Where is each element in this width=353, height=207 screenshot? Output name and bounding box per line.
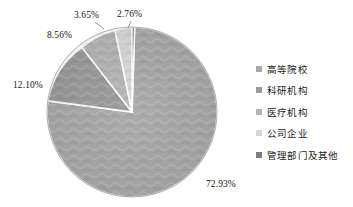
chart-legend: 高等院校 科研机构 医疗机构 公司企业 管理部门及其他: [256, 58, 351, 166]
legend-item-higher-education[interactable]: 高等院校: [256, 58, 351, 80]
legend-item-research-institute[interactable]: 科研机构: [256, 80, 351, 102]
legend-swatch-icon: [256, 109, 262, 115]
pie-value-label-company-enterprise: 3.65%: [74, 10, 99, 20]
legend-swatch-icon: [256, 130, 262, 136]
legend-swatch-icon: [256, 87, 262, 93]
legend-label: 公司企业: [267, 126, 308, 140]
leader-line-365: [95, 22, 104, 29]
pie-shading-overlay: [47, 27, 217, 197]
pie-value-label-research-institute: 12.10%: [13, 80, 43, 90]
legend-label: 高等院校: [267, 62, 308, 76]
legend-label: 管理部门及其他: [267, 148, 338, 162]
legend-item-medical-institution[interactable]: 医疗机构: [256, 101, 351, 123]
legend-swatch-icon: [256, 152, 262, 158]
legend-label: 医疗机构: [267, 105, 308, 119]
legend-swatch-icon: [256, 66, 262, 72]
pie-value-label-admin-and-others: 2.76%: [117, 9, 142, 19]
legend-item-company-enterprise[interactable]: 公司企业: [256, 123, 351, 145]
legend-item-admin-and-others[interactable]: 管理部门及其他: [256, 144, 351, 166]
legend-label: 科研机构: [267, 83, 308, 97]
pie-chart-figure: 72.93% 12.10% 8.56% 3.65% 2.76% 高等院校 科研机…: [0, 0, 353, 207]
pie-value-label-medical-institution: 8.56%: [47, 30, 72, 40]
pie-value-label-higher-education: 72.93%: [206, 179, 236, 189]
